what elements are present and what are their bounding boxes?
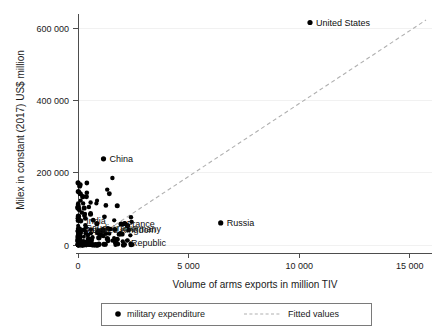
scatter-plot: 600 000 400 000 200 000 0 Milex in const… [0, 0, 437, 336]
data-point-label-saudi-arabia: Saudi Arabia [86, 223, 137, 233]
data-point [105, 187, 109, 191]
data-point [110, 176, 114, 180]
data-point [82, 239, 86, 243]
fitted-values-line [80, 20, 426, 248]
data-point [95, 242, 100, 247]
data-point [107, 191, 112, 196]
data-point [112, 218, 116, 222]
chart-legend: military expenditure Fitted values [101, 303, 371, 325]
data-point-label-republic: Republic [131, 238, 167, 248]
data-point [75, 205, 80, 210]
data-point [84, 181, 89, 186]
y-tick-label-600000: 600 000 [36, 24, 69, 34]
x-tick-label-5000: 5 000 [177, 261, 200, 271]
data-point-russia: Russia [218, 218, 254, 228]
legend-label-military-expenditure: military expenditure [127, 309, 205, 319]
data-point [84, 194, 89, 199]
y-tick-label-200000: 200 000 [36, 168, 69, 178]
data-point [121, 239, 125, 243]
labeled-data-points: United States China Russia India France … [77, 18, 371, 248]
chart-figure: 600 000 400 000 200 000 0 Milex in const… [0, 0, 437, 336]
legend-label-fitted-values: Fitted values [288, 309, 340, 319]
data-point [77, 230, 82, 235]
data-point [79, 199, 83, 203]
x-tick-label-15000: 15 000 [396, 261, 424, 271]
x-tick-label-10000: 10 000 [285, 261, 313, 271]
data-point-label-united-states: United States [316, 18, 371, 28]
data-point-label-china: China [110, 154, 134, 164]
data-point-china: China [101, 154, 133, 164]
data-point-label-russia: Russia [227, 218, 255, 228]
scatter-cluster [75, 176, 134, 248]
data-point [82, 235, 86, 239]
y-axis: 600 000 400 000 200 000 0 Milex in const… [15, 14, 78, 251]
data-point [87, 205, 91, 209]
y-axis-title: Milex in constant (2017) US$ million [15, 50, 26, 210]
data-point [88, 200, 92, 204]
data-point [79, 210, 84, 215]
x-axis-title: Volume of arms exports in million TIV [173, 279, 338, 290]
data-point [115, 203, 120, 208]
data-point [112, 236, 116, 240]
x-axis: 0 5 000 10 000 15 000 Volume of arms exp… [75, 253, 432, 290]
legend-marker-military-expenditure [115, 311, 121, 317]
data-point [125, 238, 129, 242]
data-point [78, 191, 83, 196]
data-point [77, 183, 82, 188]
data-point [88, 237, 92, 241]
y-tick-label-400000: 400 000 [36, 96, 69, 106]
data-point [77, 242, 81, 246]
y-tick-label-0: 0 [64, 241, 69, 251]
data-point [105, 236, 110, 241]
x-tick-label-0: 0 [75, 261, 80, 271]
gridlines [78, 28, 432, 245]
data-point [95, 199, 99, 203]
data-point [104, 203, 109, 208]
data-point [82, 205, 87, 210]
data-point-united-states: United States [307, 18, 370, 28]
data-point [96, 235, 101, 240]
